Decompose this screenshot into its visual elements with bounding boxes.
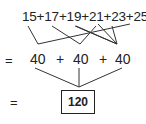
- result-value: 120: [68, 95, 88, 109]
- pair-sum-2: 40: [73, 52, 89, 66]
- sum-expression: 15+17+19+21+23+25: [22, 10, 146, 24]
- plus-sign-2: +: [99, 52, 107, 66]
- plus-sign-1: +: [56, 52, 64, 66]
- result-box: 120: [61, 90, 95, 114]
- pair-sum-1: 40: [30, 52, 46, 66]
- equals-sign-2: =: [10, 96, 18, 109]
- equals-sign-1: =: [5, 54, 13, 67]
- pair-sum-3: 40: [115, 52, 131, 66]
